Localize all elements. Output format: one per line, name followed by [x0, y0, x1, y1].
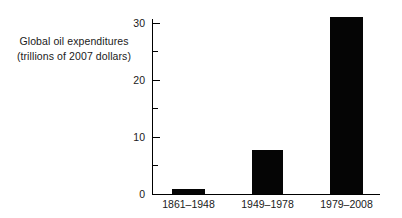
- bar-1: [252, 150, 283, 193]
- y-tick-label-0: 0: [119, 189, 145, 200]
- x-category-label-1: 1949–1978: [225, 198, 311, 210]
- y-tick-15: [153, 108, 158, 109]
- y-tick-label-30: 30: [119, 18, 145, 29]
- x-category-label-0: 1861–1948: [146, 198, 232, 210]
- y-axis-title-line-1: Global oil expenditures: [8, 34, 140, 49]
- bar-chart: Global oil expenditures (trillions of 20…: [0, 0, 402, 218]
- y-tick-20: [153, 80, 160, 81]
- x-axis-line: [152, 194, 380, 195]
- y-axis-title-line-2: (trillions of 2007 dollars): [8, 49, 140, 64]
- y-axis-line: [152, 19, 153, 195]
- y-axis-title: Global oil expenditures (trillions of 20…: [8, 34, 140, 64]
- x-category-label-2: 1979–2008: [304, 198, 390, 210]
- y-tick-30: [153, 23, 160, 24]
- y-tick-10: [153, 137, 160, 138]
- y-tick-label-10: 10: [119, 132, 145, 143]
- y-tick-0: [153, 194, 160, 195]
- y-tick-25: [153, 51, 158, 52]
- bar-0: [172, 189, 205, 194]
- y-tick-5: [153, 165, 158, 166]
- y-tick-label-20: 20: [119, 75, 145, 86]
- bar-2: [330, 17, 363, 193]
